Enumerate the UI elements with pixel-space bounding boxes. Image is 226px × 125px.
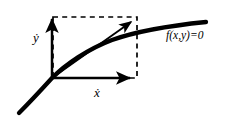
x-axis-label: ẋ bbox=[94, 86, 100, 99]
constraint-curve-label: f(x,y)=0 bbox=[166, 30, 203, 42]
diagram-canvas bbox=[0, 0, 226, 125]
figure-container: ẏ ẋ f(x,y)=0 bbox=[0, 0, 226, 125]
velocity-vector-arrow bbox=[52, 22, 131, 78]
y-axis-label: ẏ bbox=[33, 31, 39, 44]
